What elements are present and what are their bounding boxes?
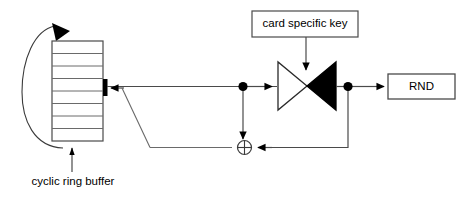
diagram-canvas: card specific key RND cyclic ring buffer: [0, 0, 466, 204]
cyclic-ring-buffer-label: cyclic ring buffer: [12, 176, 134, 188]
junction-dot-left: [238, 82, 247, 139]
junction-dot-right: [258, 82, 353, 148]
cyclic-ring-buffer: [52, 41, 103, 141]
write-pointer-bar: [103, 79, 108, 96]
cipher-bowtie-icon: [278, 62, 336, 110]
rnd-label: RND: [388, 74, 455, 99]
diagram-svg: [0, 0, 466, 204]
xor-gate-icon: [238, 141, 252, 155]
card-specific-key-label: card specific key: [252, 11, 358, 37]
edge-feedback-into-buffer: [111, 88, 232, 148]
